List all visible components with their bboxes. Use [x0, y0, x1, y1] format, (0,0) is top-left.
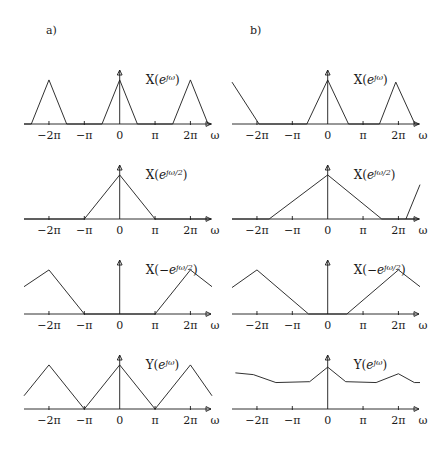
plot-a2: −2π−π0π2πωX(ejω/2)	[18, 157, 218, 249]
x-tick-label: π	[151, 319, 158, 332]
x-axis-label: ω	[211, 319, 220, 332]
x-tick-label: −2π	[245, 129, 268, 142]
plot-b3: −2π−π0π2πωX(−ejω/2)	[226, 252, 426, 344]
function-label: X(−ejω/2)	[354, 263, 406, 278]
x-tick-label: 0	[116, 414, 123, 427]
panel-label-b: b)	[250, 24, 261, 37]
x-tick-label: −π	[76, 129, 92, 142]
x-tick-label: π	[359, 224, 366, 237]
signal-curve	[24, 80, 212, 124]
x-tick-label: π	[151, 129, 158, 142]
x-tick-label: −π	[76, 414, 92, 427]
x-axis-label: ω	[419, 414, 428, 427]
x-axis-label: ω	[211, 224, 220, 237]
x-tick-label: 0	[324, 224, 331, 237]
signal-curve	[232, 80, 420, 124]
x-axis-label: ω	[419, 224, 428, 237]
x-axis-label: ω	[419, 129, 428, 142]
function-label: X(ejω)	[354, 73, 388, 88]
x-tick-label: 2π	[391, 319, 405, 332]
x-tick-label: 2π	[183, 414, 197, 427]
x-tick-label: 0	[116, 319, 123, 332]
x-tick-label: 0	[324, 319, 331, 332]
signal-curve	[406, 185, 420, 219]
x-tick-label: −2π	[37, 129, 60, 142]
function-label: Y(ejω)	[353, 358, 387, 373]
x-tick-label: 0	[116, 224, 123, 237]
x-tick-label: 0	[324, 129, 331, 142]
x-tick-label: −π	[284, 414, 300, 427]
plot-b4: −2π−π0π2πωY(ejω)	[226, 347, 426, 439]
plot-a1: −2π−π0π2πωX(ejω)	[18, 62, 218, 154]
x-tick-label: 2π	[183, 224, 197, 237]
x-tick-label: 2π	[391, 224, 405, 237]
x-tick-label: π	[151, 224, 158, 237]
plot-a3: −2π−π0π2πωX(−ejω/2)	[18, 252, 218, 344]
x-tick-label: −2π	[245, 414, 268, 427]
x-tick-label: −π	[284, 129, 300, 142]
x-tick-label: 2π	[391, 129, 405, 142]
x-tick-label: −2π	[37, 319, 60, 332]
x-axis-label: ω	[211, 129, 220, 142]
x-tick-label: −2π	[37, 414, 60, 427]
signal-curve	[24, 365, 212, 409]
x-tick-label: 2π	[183, 319, 197, 332]
x-tick-label: 2π	[391, 414, 405, 427]
x-tick-label: π	[359, 414, 366, 427]
plot-b1: −2π−π0π2πωX(ejω)	[226, 62, 426, 154]
x-tick-label: 0	[116, 129, 123, 142]
function-label: Y(ejω)	[145, 358, 179, 373]
signal-spectra-figure: a) b) −2π−π0π2πωX(ejω) −2π−π0π2πωX(ejω/2…	[0, 0, 445, 454]
x-tick-label: −2π	[37, 224, 60, 237]
x-tick-label: π	[151, 414, 158, 427]
x-axis-label: ω	[211, 414, 220, 427]
function-label: X(ejω)	[146, 73, 180, 88]
plot-b2: −2π−π0π2πωX(ejω/2)	[226, 157, 426, 249]
function-label: X(−ejω/2)	[146, 263, 198, 278]
x-tick-label: −π	[76, 224, 92, 237]
x-tick-label: −π	[284, 319, 300, 332]
panel-label-a: a)	[46, 24, 57, 37]
x-tick-label: −2π	[245, 319, 268, 332]
x-axis-label: ω	[419, 319, 428, 332]
x-tick-label: −2π	[245, 224, 268, 237]
function-label: X(ejω/2)	[146, 168, 188, 183]
function-label: X(ejω/2)	[354, 168, 396, 183]
x-tick-label: −π	[284, 224, 300, 237]
x-tick-label: 2π	[183, 129, 197, 142]
plot-a4: −2π−π0π2πωY(ejω)	[18, 347, 218, 439]
x-tick-label: π	[359, 319, 366, 332]
x-tick-label: π	[359, 129, 366, 142]
signal-curve	[24, 270, 212, 314]
x-tick-label: −π	[76, 319, 92, 332]
signal-curve	[232, 270, 420, 314]
x-tick-label: 0	[324, 414, 331, 427]
